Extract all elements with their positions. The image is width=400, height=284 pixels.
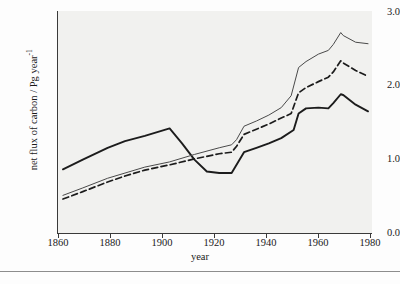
plot-area [57,11,372,234]
x-tick-label-1880: 1880 [85,238,135,249]
x-tick-label-1920: 1920 [189,238,239,249]
x-tick-label-1980: 1980 [345,238,395,249]
x-tick-label-1860: 1860 [33,238,83,249]
x-tick-label-1960: 1960 [293,238,343,249]
series-group [63,33,368,200]
chart-figure: net flux of carbon / Pg year-1 3.0 2.0 1… [0,0,400,268]
figure-page: net flux of carbon / Pg year-1 3.0 2.0 1… [0,0,400,284]
y-axis-title-exponent: -1 [25,49,34,55]
y-axis-title: net flux of carbon / Pg year-1 [25,15,39,205]
series-line-thin-solid [63,33,368,196]
plot-svg [58,11,373,234]
series-line-thick-solid [63,94,368,173]
page-bottom-rule [0,271,400,272]
x-axis-title: year [0,251,400,262]
y-axis-title-main: net flux of carbon / Pg year [28,55,39,170]
x-tick-label-1940: 1940 [241,238,291,249]
x-tick-label-1900: 1900 [137,238,187,249]
